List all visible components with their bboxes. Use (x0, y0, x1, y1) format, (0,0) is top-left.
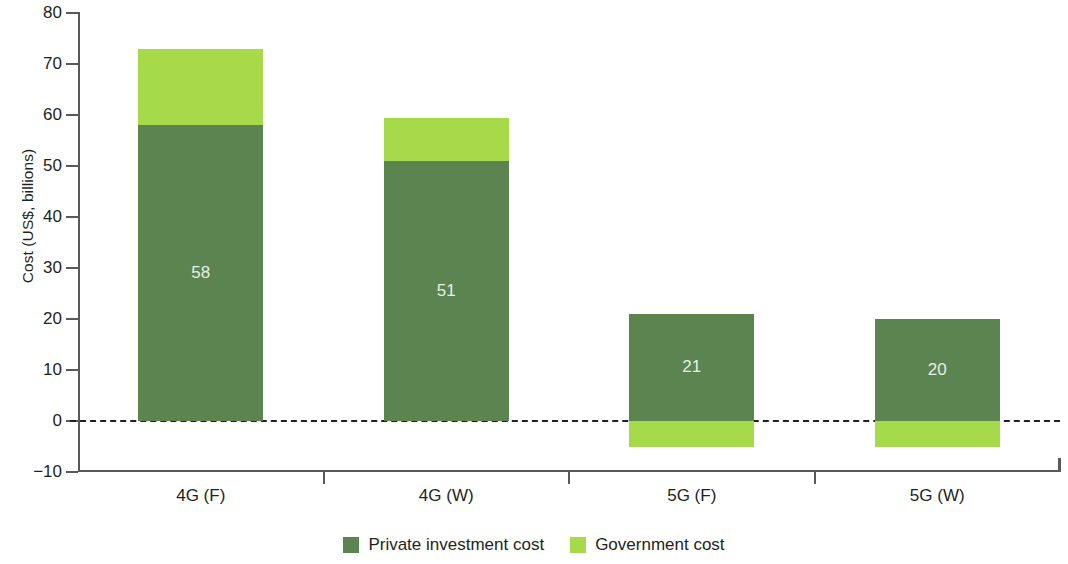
y-axis-tick (66, 165, 78, 167)
bar-value-label: 58 (138, 264, 263, 281)
y-axis-tick (66, 471, 78, 473)
legend-label: Government cost (595, 536, 724, 553)
y-axis-tick (66, 267, 78, 269)
x-axis-category-label: 5G (F) (567, 487, 817, 504)
y-axis-tick (66, 114, 78, 116)
y-axis-tick-label: 20 (0, 310, 62, 327)
y-axis-tick-label: 30 (0, 259, 62, 276)
bar-segment-private-investment-cost[interactable]: 58 (138, 125, 263, 421)
y-axis-tick (66, 63, 78, 65)
bar-segment-private-investment-cost[interactable]: 20 (875, 319, 1000, 421)
bar-segment-private-investment-cost[interactable]: 51 (384, 161, 509, 421)
y-axis-tick-label: 10 (0, 361, 62, 378)
legend-swatch-icon (570, 537, 586, 553)
y-axis-tick-label: 50 (0, 157, 62, 174)
stacked-bar-chart: Cost (US$, billions) 80706050403020100−1… (0, 0, 1068, 564)
y-axis-tick-label: 70 (0, 55, 62, 72)
bar-segment-private-investment-cost[interactable]: 21 (629, 314, 754, 421)
y-axis-tick-label: 80 (0, 4, 62, 21)
chart-legend: Private investment costGovernment cost (0, 536, 1068, 553)
y-axis-tick (66, 318, 78, 320)
bar-value-label: 20 (875, 361, 1000, 378)
x-axis-tick (323, 472, 325, 484)
x-axis-tick (814, 472, 816, 484)
y-axis-tick (66, 12, 78, 14)
y-axis-tick (66, 216, 78, 218)
y-axis-line (78, 12, 80, 472)
x-axis-category-label: 5G (W) (812, 487, 1062, 504)
legend-swatch-icon (343, 537, 359, 553)
legend-label: Private investment cost (368, 536, 544, 553)
bar-segment-government-cost[interactable] (875, 421, 1000, 447)
y-axis-tick-label: 0 (0, 412, 62, 429)
bar-value-label: 51 (384, 282, 509, 299)
legend-item[interactable]: Government cost (570, 536, 724, 553)
bar-segment-government-cost[interactable] (629, 421, 754, 447)
y-axis-tick-label: 40 (0, 208, 62, 225)
x-axis-category-label: 4G (W) (321, 487, 571, 504)
legend-item[interactable]: Private investment cost (343, 536, 544, 553)
bar-segment-government-cost[interactable] (384, 118, 509, 161)
y-axis-tick-label: 60 (0, 106, 62, 123)
y-axis-tick-label: −10 (0, 463, 62, 480)
x-axis-tick (568, 472, 570, 484)
y-axis-tick (66, 369, 78, 371)
x-axis-category-label: 4G (F) (76, 487, 326, 504)
x-axis-tick (1059, 458, 1061, 472)
bar-value-label: 21 (629, 358, 754, 375)
bar-segment-government-cost[interactable] (138, 49, 263, 126)
